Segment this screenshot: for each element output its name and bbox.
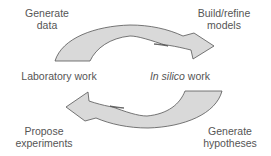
step-generate-data-line1: Generate xyxy=(17,7,77,19)
node-laboratory-work: Laboratory work xyxy=(14,70,104,82)
step-build-models-line1: Build/refine xyxy=(189,7,259,19)
bottom-curved-arrow-icon xyxy=(66,91,222,128)
step-generate-hypotheses: Generate hypotheses xyxy=(198,125,262,149)
node-laboratory-work-label: Laboratory work xyxy=(21,70,96,82)
step-build-models-line2: models xyxy=(189,19,259,31)
step-build-refine-models: Build/refine models xyxy=(189,7,259,31)
node-in-silico-rest: work xyxy=(185,70,210,82)
cycle-diagram: Generate data Build/refine models Labora… xyxy=(0,0,271,156)
step-propose-line2: experiments xyxy=(12,137,76,149)
step-generate-data-line2: data xyxy=(17,19,77,31)
step-propose-experiments: Propose experiments xyxy=(12,125,76,149)
step-generate-hyp-line1: Generate xyxy=(198,125,262,137)
step-propose-line1: Propose xyxy=(12,125,76,137)
step-generate-data: Generate data xyxy=(17,7,77,31)
node-in-silico-italic: In silico xyxy=(150,70,185,82)
node-in-silico-work: In silico work xyxy=(148,70,212,82)
step-generate-hyp-line2: hypotheses xyxy=(198,137,262,149)
